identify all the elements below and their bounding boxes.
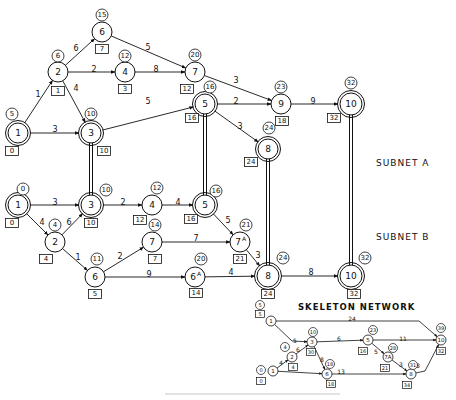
subnet-a-node-7: 72012 <box>181 49 206 94</box>
node-id: 5 <box>366 337 370 343</box>
late-time: 10 <box>87 219 96 227</box>
network-edges: 1362485532393461242975348 <box>25 36 338 279</box>
early-time: 0 <box>21 185 25 193</box>
edge-weight: 5 <box>145 43 150 52</box>
edge-weight: 4 <box>39 218 44 227</box>
late-time: 12 <box>136 216 145 224</box>
late-time: 16 <box>188 114 197 122</box>
skeleton-node-8: 83134 <box>403 361 418 389</box>
node-id: 5 <box>202 99 208 109</box>
edge-weight: 9 <box>146 270 151 279</box>
node-id: 1 <box>271 368 275 374</box>
caption-faint <box>165 393 340 395</box>
late-time: 32 <box>438 348 444 354</box>
node-id: 3 <box>310 339 314 345</box>
edge-weight: 3 <box>233 76 238 85</box>
node-id: 5 <box>202 200 208 210</box>
node-id: 7 <box>149 237 155 247</box>
early-time: 24 <box>279 254 288 262</box>
edge-weight: 24 <box>348 315 356 322</box>
node-id: 2 <box>290 354 294 360</box>
early-time: 10 <box>87 110 96 118</box>
late-time: 1 <box>56 87 60 95</box>
subnet-a-node-2: 261 <box>48 50 68 96</box>
node-id: 2 <box>55 67 61 77</box>
node-id: 7 <box>192 67 198 77</box>
late-time: 7 <box>153 255 157 263</box>
early-time: 21 <box>242 221 251 229</box>
skeleton-edge-1-10 <box>276 321 437 337</box>
subnet-b-node-7: 7147 <box>142 219 162 264</box>
edge-weight: 3 <box>52 198 57 207</box>
late-time: 4 <box>44 255 49 263</box>
node-id: 2 <box>52 237 58 247</box>
network-diagram: 1362485532393461242975348 15026131010412… <box>0 0 456 400</box>
subnet-b-node-6: 6115 <box>85 253 105 299</box>
late-time: 12 <box>183 85 192 93</box>
late-time: 10 <box>100 147 109 155</box>
edge-weight: 4 <box>228 268 233 277</box>
early-time: 16 <box>206 83 215 91</box>
subnet-b-node-6A: 6A2014 <box>185 253 207 298</box>
early-time: 0 <box>259 367 262 373</box>
late-time: 18 <box>278 117 287 125</box>
early-time: 15 <box>98 11 107 19</box>
subnet-a-label: SUBNET A <box>376 158 429 168</box>
subnet-a-edge-1-2 <box>25 80 53 123</box>
early-time: 32 <box>347 79 356 87</box>
early-time: 5 <box>10 110 14 118</box>
early-time: 10 <box>310 329 316 335</box>
edge-weight: 5 <box>145 97 150 106</box>
node-id: 9 <box>278 99 284 109</box>
edge-weight: 8 <box>320 356 324 363</box>
edge-weight: 8 <box>153 65 158 74</box>
skeleton-node-6: 61818 <box>322 360 336 388</box>
edge-weight: 2 <box>117 252 122 261</box>
early-time: 4 <box>53 221 58 229</box>
late-time: 14 <box>192 289 201 297</box>
edge-weight: 6 <box>66 218 71 227</box>
node-id: 10 <box>438 337 445 343</box>
edge-weight: 1 <box>75 253 80 262</box>
early-time: 28 <box>390 345 396 351</box>
late-time: 24 <box>247 158 256 166</box>
network-nodes: 1502613101041235161661577201282424923181… <box>6 9 372 299</box>
node-id: 4 <box>122 67 128 77</box>
subnet-b-node-3: 31010 <box>79 184 113 228</box>
edge-weight: 6 <box>337 335 341 342</box>
early-time: 23 <box>370 327 376 333</box>
node-id: 4 <box>149 200 155 210</box>
late-time: 16 <box>187 215 196 223</box>
subnet-b-node-1: 100 <box>6 183 31 228</box>
edge-weight: 5 <box>225 216 230 225</box>
node-id: 7 <box>235 237 241 247</box>
edge-weight: 7 <box>193 234 198 243</box>
edge-weight: 2 <box>120 198 125 207</box>
node-id: 3 <box>88 128 94 138</box>
edge-weight: 2 <box>233 97 238 106</box>
edge-weight: 3 <box>399 361 403 368</box>
skeleton-node-7A: 7A2821 <box>381 344 398 372</box>
node-id: 8 <box>265 271 271 281</box>
subnet-b-node-10: 103232 <box>338 252 372 299</box>
early-time: 20 <box>197 255 206 263</box>
late-time: 34 <box>404 382 410 388</box>
late-time: 0 <box>10 219 14 227</box>
edge-weight: 9 <box>310 97 315 106</box>
node-id: 6 <box>99 27 105 37</box>
edge-weight: 2 <box>91 65 96 74</box>
early-time: 6 <box>56 52 61 60</box>
subnet-a-node-8: 82424 <box>245 122 281 167</box>
early-time: 39 <box>438 325 444 331</box>
late-time: 24 <box>264 290 273 298</box>
early-time: 12 <box>153 184 162 192</box>
early-time: 18 <box>327 361 333 367</box>
node-id: 6 <box>190 272 196 282</box>
node-id: 6 <box>325 371 329 377</box>
early-time: 11 <box>93 255 102 263</box>
late-time: 18 <box>328 381 334 387</box>
skeleton-node-2: 244 <box>281 343 298 371</box>
early-time: 5 <box>258 302 261 308</box>
edge-weight: 11 <box>399 335 407 342</box>
late-time: 32 <box>330 114 339 122</box>
